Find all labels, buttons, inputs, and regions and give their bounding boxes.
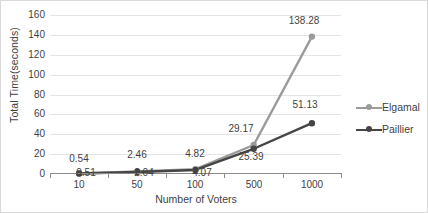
data-label-paillier-10: 0.51 <box>64 167 108 178</box>
data-label-paillier-100: 4.07 <box>180 167 224 178</box>
legend-item-paillier[interactable]: Paillier <box>356 118 428 140</box>
y-tick-20: 20 <box>19 149 45 159</box>
data-label-paillier-500: 25.39 <box>229 151 273 162</box>
x-axis-tick-0 <box>50 173 51 178</box>
data-label-elgamal-10: 0.54 <box>57 153 101 164</box>
x-tick-50: 50 <box>114 179 160 190</box>
x-axis-tick-4 <box>283 173 284 178</box>
chart-legend: Elgamal Paillier <box>356 96 428 140</box>
data-label-elgamal-100: 4.82 <box>173 148 217 159</box>
y-tick-140: 140 <box>19 30 45 40</box>
y-tick-60: 60 <box>19 109 45 119</box>
y-tick-100: 100 <box>19 70 45 80</box>
y-tick-120: 120 <box>19 50 45 60</box>
legend-label-elgamal: Elgamal <box>382 101 420 113</box>
legend-label-paillier: Paillier <box>382 123 414 135</box>
data-label-paillier-1000: 51.13 <box>283 99 327 110</box>
x-axis-tick-2 <box>166 173 167 178</box>
line-chart-figure: Total Time(seconds) 160 140 120 100 80 6… <box>0 0 428 213</box>
y-tick-160: 160 <box>19 10 45 20</box>
y-tick-0: 0 <box>19 169 45 179</box>
y-axis-tick-labels: 160 140 120 100 80 60 40 20 0 <box>15 1 45 213</box>
y-tick-40: 40 <box>19 129 45 139</box>
y-tick-80: 80 <box>19 90 45 100</box>
x-axis-tick-1 <box>108 173 109 178</box>
data-label-elgamal-500: 29.17 <box>219 123 263 134</box>
legend-item-elgamal[interactable]: Elgamal <box>356 96 428 118</box>
data-label-elgamal-1000: 138.28 <box>282 15 326 26</box>
x-axis-tick-3 <box>224 173 225 178</box>
data-label-elgamal-50: 2.46 <box>115 149 159 160</box>
data-label-paillier-50: 2.04 <box>122 167 166 178</box>
x-tick-1000: 1000 <box>289 179 335 190</box>
marker-elgamal-1000 <box>309 33 315 39</box>
x-axis-tick-5 <box>341 173 342 178</box>
legend-swatch-paillier <box>356 124 382 134</box>
x-tick-500: 500 <box>231 179 277 190</box>
x-tick-10: 10 <box>56 179 102 190</box>
x-axis-title: Number of Voters <box>46 193 346 205</box>
legend-swatch-elgamal <box>356 102 382 112</box>
marker-paillier-1000 <box>309 120 315 126</box>
x-tick-100: 100 <box>172 179 218 190</box>
